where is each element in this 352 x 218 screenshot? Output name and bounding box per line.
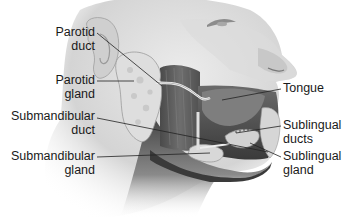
label-submandibular-duct: Submandibular duct (11, 110, 95, 137)
label-submandibular-gland: Submandibular gland (11, 150, 95, 177)
label-sublingual-ducts: Sublingual ducts (283, 119, 341, 146)
label-parotid-duct: Parotid duct (55, 26, 95, 53)
label-tongue: Tongue (283, 82, 324, 96)
label-parotid-gland: Parotid gland (55, 74, 95, 101)
masseter-muscle (160, 65, 200, 151)
label-sublingual-gland: Sublingual gland (283, 150, 341, 177)
